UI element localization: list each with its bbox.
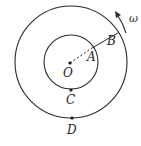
rotating-disc-diagram: O A B C D ω	[0, 0, 141, 146]
label-O: O	[63, 66, 73, 80]
label-omega: ω	[129, 12, 138, 25]
label-C: C	[66, 93, 75, 107]
rotation-arrow-icon	[118, 16, 126, 33]
label-D: D	[66, 123, 77, 137]
label-A: A	[86, 50, 96, 64]
point-C	[69, 88, 72, 91]
point-O	[68, 61, 71, 64]
label-B: B	[106, 34, 116, 48]
point-D	[70, 116, 73, 119]
